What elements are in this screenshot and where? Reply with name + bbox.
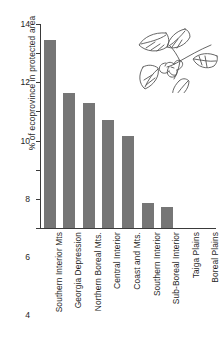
bar-slot <box>99 24 119 228</box>
x-axis-label: Coast and Mts. <box>132 232 142 290</box>
x-axis-labels: Southern Interior MtsGeorgia DepressionN… <box>40 232 216 344</box>
bar <box>142 203 154 228</box>
bar <box>83 103 95 228</box>
y-axis-tick-label: 12 <box>20 77 30 87</box>
y-axis-tick-label: 10 <box>20 136 30 146</box>
x-axis-label: Southern Interior Mts <box>54 232 64 312</box>
x-axis-label: Taiga Plains <box>191 232 201 278</box>
y-axis-tick-label: 8 <box>25 194 30 204</box>
bar-slot <box>79 24 99 228</box>
y-axis-tick-label: 6 <box>25 252 30 262</box>
bar-slot <box>60 24 80 228</box>
x-axis-label: Northern Boreal Mts. <box>93 232 103 311</box>
bar-slot <box>40 24 60 228</box>
x-axis-label: Boreal Plains <box>210 232 220 283</box>
bar-chart-figure: % of ecoprovince in protected area 02468… <box>0 0 223 348</box>
x-axis-label: Sub-Boreal Interior <box>171 232 181 304</box>
y-axis-tick-label: 14 <box>20 19 30 29</box>
botanical-sprig-illustration <box>133 23 219 93</box>
x-axis-label: Southern Interior <box>152 232 162 296</box>
y-axis-tick-label: 4 <box>25 310 30 320</box>
bar <box>44 40 56 228</box>
x-axis-line <box>40 228 216 229</box>
x-axis-label: Central Interior <box>112 232 122 289</box>
bar <box>122 136 134 228</box>
y-axis-tick: 0 <box>36 228 40 229</box>
bar <box>102 120 114 228</box>
x-axis-label: Georgia Depression <box>73 232 83 308</box>
bar <box>63 93 75 229</box>
bar <box>161 207 173 228</box>
